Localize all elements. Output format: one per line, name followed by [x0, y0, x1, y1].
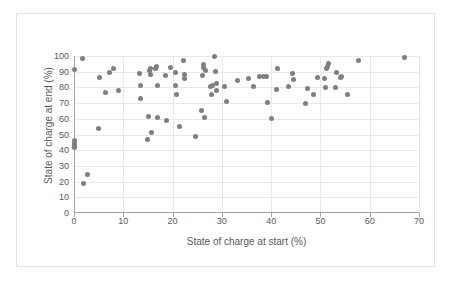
scatter-point [81, 181, 86, 186]
scatter-point [235, 78, 240, 83]
scatter-point [311, 92, 316, 97]
x-axis-title: State of charge at start (%) [74, 236, 419, 247]
gridline-horizontal [74, 135, 419, 136]
scatter-point [137, 71, 142, 76]
x-axis-tick-label: 20 [168, 217, 178, 226]
scatter-point [212, 54, 217, 59]
scatter-point [116, 88, 121, 93]
scatter-point [402, 55, 407, 60]
x-axis-tick-label: 30 [217, 217, 227, 226]
scatter-point [265, 100, 270, 105]
gridline-horizontal [74, 103, 419, 104]
scatter-point [209, 92, 214, 97]
x-axis-tick-label: 50 [315, 217, 325, 226]
scatter-point [269, 116, 274, 121]
scatter-point [274, 87, 279, 92]
y-axis-tick-label: 20 [59, 178, 69, 187]
x-axis-tick-label: 10 [118, 217, 128, 226]
scatter-point [200, 73, 205, 78]
scatter-point [138, 96, 143, 101]
y-axis-tick-label: 10 [59, 193, 69, 202]
gridline-vertical [222, 56, 223, 213]
gridline-horizontal [74, 119, 419, 120]
scatter-point [222, 84, 227, 89]
scatter-point [177, 124, 182, 129]
x-axis-line [74, 212, 419, 213]
scatter-point [213, 69, 218, 74]
scatter-point [356, 58, 361, 63]
scatter-point [96, 126, 101, 131]
gridline-vertical [123, 56, 124, 213]
scatter-point [193, 134, 198, 139]
scatter-point [103, 90, 108, 95]
scatter-point [291, 77, 296, 82]
gridline-vertical [370, 56, 371, 213]
y-axis-line [74, 56, 75, 213]
scatter-point [173, 83, 178, 88]
gridline-horizontal [74, 166, 419, 167]
x-axis-tick-label: 60 [365, 217, 375, 226]
scatter-point [111, 66, 116, 71]
scatter-point [85, 172, 90, 177]
scatter-point [72, 145, 77, 150]
gridline-vertical [173, 56, 174, 213]
scatter-point [203, 68, 208, 73]
scatter-point [214, 81, 219, 86]
scatter-point [145, 137, 150, 142]
scatter-point [323, 85, 328, 90]
y-axis-tick-label: 30 [59, 162, 69, 171]
scatter-point [164, 118, 169, 123]
scatter-point [199, 108, 204, 113]
x-axis-tick-label: 70 [414, 217, 424, 226]
scatter-point [345, 92, 350, 97]
scatter-point [326, 61, 331, 66]
scatter-point [154, 64, 159, 69]
scatter-point [163, 73, 168, 78]
x-axis-tick-label: 40 [266, 217, 276, 226]
scatter-point [339, 74, 344, 79]
y-axis-tick-label: 80 [59, 83, 69, 92]
scatter-point [303, 101, 308, 106]
y-axis-tick-label: 70 [59, 99, 69, 108]
gridline-horizontal [74, 56, 419, 57]
chart-figure: 0102030405060708090100 010203040506070 S… [16, 13, 435, 267]
y-axis-tick-label: 0 [64, 209, 69, 218]
scatter-point [148, 72, 153, 77]
scatter-point [275, 66, 280, 71]
scatter-point [333, 85, 338, 90]
gridline-horizontal [74, 72, 419, 73]
gridline-horizontal [74, 197, 419, 198]
scatter-point [173, 70, 178, 75]
y-axis-tick-label: 100 [54, 52, 69, 61]
y-axis-title: State of charge at end (%) [43, 47, 54, 204]
plot-area [74, 56, 419, 213]
scatter-point [286, 84, 291, 89]
gridline-vertical [419, 56, 420, 213]
scatter-point [305, 86, 310, 91]
y-axis-tick-label: 40 [59, 146, 69, 155]
scatter-point [168, 65, 173, 70]
x-axis-tick-label: 0 [71, 217, 76, 226]
scatter-point [97, 75, 102, 80]
x-axis-tick-labels: 010203040506070 [74, 217, 419, 229]
scatter-point [202, 115, 207, 120]
scatter-point [72, 67, 77, 72]
scatter-point [182, 76, 187, 81]
scatter-point [290, 71, 295, 76]
gridline-horizontal [74, 182, 419, 183]
scatter-point [214, 88, 219, 93]
scatter-point [80, 56, 85, 61]
y-axis-tick-label: 60 [59, 115, 69, 124]
scatter-point [174, 92, 179, 97]
gridline-horizontal [74, 150, 419, 151]
scatter-point [264, 74, 269, 79]
gridline-vertical [271, 56, 272, 213]
y-axis-tick-label: 50 [59, 131, 69, 140]
y-axis-tick-label: 90 [59, 68, 69, 77]
scatter-point [181, 58, 186, 63]
scatter-point [334, 70, 339, 75]
scatter-point [246, 76, 251, 81]
gridline-horizontal [74, 87, 419, 88]
scatter-point [322, 76, 327, 81]
